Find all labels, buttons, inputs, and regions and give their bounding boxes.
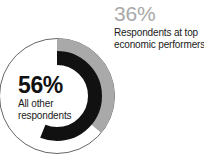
- callout-top-description: Respondents at top economic performers: [114, 27, 204, 51]
- callout-left-description-line1: All other: [18, 98, 98, 110]
- callout-left-value: 56%: [18, 73, 98, 97]
- callout-left-description-line2: respondents: [18, 110, 98, 122]
- callout-top-description-line2: economic performers: [114, 39, 204, 51]
- callout-top-value: 36%: [114, 2, 204, 25]
- callout-all-other: 56% All other respondents: [18, 73, 98, 122]
- donut-chart-figure: 36% Respondents at top economic performe…: [0, 0, 204, 161]
- callout-top-performers: 36% Respondents at top economic performe…: [114, 2, 204, 51]
- callout-left-description: All other respondents: [18, 98, 98, 122]
- callout-top-description-line1: Respondents at top: [114, 27, 204, 39]
